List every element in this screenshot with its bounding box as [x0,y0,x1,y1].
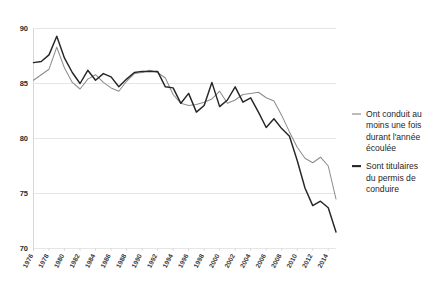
x-tick-label: 1988 [114,252,127,269]
series-line-conduit [34,47,337,199]
x-tick-label: 2006 [254,252,267,269]
x-tick-label: 2008 [270,252,283,269]
x-tick-label: 2000 [207,252,220,269]
x-tick-label: 2010 [285,252,298,269]
x-tick-label: 2004 [238,252,251,269]
chart-legend: Ont conduit aumoins une foisdurant l'ann… [352,109,422,194]
x-tick-label: 1984 [83,252,96,269]
legend-label-conduit: Ont conduit au [366,109,422,119]
legend-label-conduit: écoulée [366,143,396,153]
legend-label-conduit: durant l'année [366,132,420,142]
x-tick-label: 1998 [192,252,205,269]
x-tick-label: 2002 [223,252,236,269]
x-axis-tick-labels: 1976197819801982198419861988199019921994… [21,249,329,269]
y-tick-label: 70 [20,244,28,253]
y-tick-label: 90 [20,24,28,33]
x-tick-label: 1992 [145,252,158,269]
legend-label-titulaires: du permis de [366,173,416,183]
x-tick-label: 2012 [301,252,314,269]
y-tick-label: 75 [20,189,28,198]
x-tick-label: 2014 [316,252,329,269]
x-tick-label: 1978 [37,252,50,269]
data-series-group [34,36,337,232]
line-chart: 9085807570 19761978198019821984198619881… [0,0,441,292]
chart-canvas: 9085807570 19761978198019821984198619881… [0,0,441,292]
x-tick-label: 1994 [161,252,174,269]
legend-label-titulaires: Sont titulaires [366,161,418,171]
legend-label-conduit: moins une fois [366,120,421,130]
y-tick-label: 85 [20,79,28,88]
legend-label-titulaires: conduire [366,184,399,194]
y-tick-label: 80 [20,134,28,143]
x-tick-label: 1980 [52,252,65,269]
x-tick-label: 1986 [99,252,112,269]
y-axis-tick-labels: 9085807570 [20,24,28,253]
x-tick-label: 1976 [21,252,34,269]
x-tick-label: 1982 [68,252,81,269]
x-tick-label: 1996 [176,252,189,269]
x-tick-label: 1990 [130,252,143,269]
